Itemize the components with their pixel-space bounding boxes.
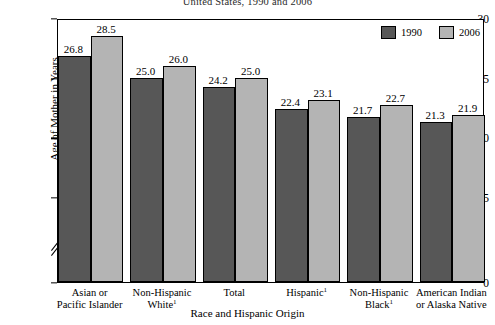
bar-value-label-1990-0: 26.8 bbox=[64, 43, 83, 55]
bar-2006-4 bbox=[380, 105, 413, 282]
legend-swatch-1990 bbox=[381, 26, 396, 39]
plot-area bbox=[57, 19, 484, 283]
x-axis-title: Race and Hispanic Origin bbox=[0, 307, 495, 319]
bar-value-label-1990-2: 24.2 bbox=[208, 74, 227, 86]
bar-value-label-2006-4: 22.7 bbox=[386, 92, 405, 104]
bar-value-label-1990-3: 22.4 bbox=[281, 96, 300, 108]
bar-series-container bbox=[58, 20, 483, 282]
bar-1990-3 bbox=[275, 109, 308, 282]
chart-legend: 1990 2006 bbox=[381, 26, 480, 39]
bar-1990-2 bbox=[203, 87, 236, 282]
x-category-label-3: Hispanic1 bbox=[286, 287, 327, 299]
bar-2006-1 bbox=[163, 66, 196, 282]
x-category-label-2: Total bbox=[224, 287, 245, 299]
bar-value-label-2006-1: 26.0 bbox=[169, 53, 188, 65]
bar-1990-1 bbox=[130, 78, 163, 282]
bar-2006-2 bbox=[235, 78, 268, 282]
legend-swatch-2006 bbox=[439, 26, 454, 39]
bar-value-label-2006-5: 21.9 bbox=[458, 102, 477, 114]
bar-1990-4 bbox=[347, 117, 380, 282]
chart-root: United States, 1990 and 2006 Age of Moth… bbox=[0, 0, 495, 325]
bar-value-label-1990-1: 25.0 bbox=[136, 65, 155, 77]
bar-2006-3 bbox=[308, 100, 341, 282]
bar-value-label-2006-2: 25.0 bbox=[241, 65, 260, 77]
bar-value-label-2006-0: 28.5 bbox=[96, 23, 115, 35]
legend-label-2006: 2006 bbox=[459, 27, 480, 38]
bar-value-label-1990-5: 21.3 bbox=[425, 109, 444, 121]
chart-title: United States, 1990 and 2006 bbox=[0, 0, 495, 7]
bar-value-label-1990-4: 21.7 bbox=[353, 104, 372, 116]
bar-1990-5 bbox=[420, 122, 453, 282]
bar-2006-5 bbox=[452, 115, 485, 282]
bar-1990-0 bbox=[58, 56, 91, 282]
legend-label-1990: 1990 bbox=[401, 27, 422, 38]
bar-value-label-2006-3: 23.1 bbox=[313, 87, 332, 99]
bar-2006-0 bbox=[91, 36, 124, 282]
